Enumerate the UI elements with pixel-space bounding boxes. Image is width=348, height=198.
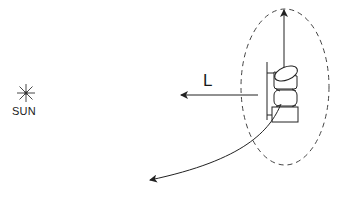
- trajectory-arrow: [150, 104, 281, 180]
- force-label-L: L: [203, 71, 212, 91]
- diagram-canvas: [0, 0, 348, 198]
- sun-label: SUN: [12, 105, 36, 117]
- spacecraft-icon: [267, 62, 300, 122]
- sun-star-icon: [17, 84, 35, 102]
